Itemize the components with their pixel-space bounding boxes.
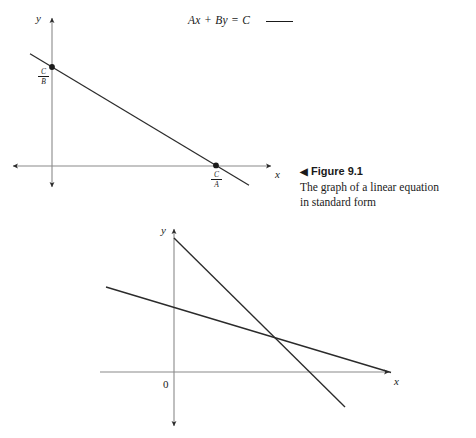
x-intercept-denominator: A: [211, 181, 222, 189]
x-intercept-point: [213, 163, 219, 169]
bottom-panel-lines: [106, 238, 391, 407]
bottom-origin-label: 0: [163, 378, 169, 390]
figure-graphics: [0, 0, 476, 438]
top-panel-axes: [13, 18, 271, 187]
caption-text: The graph of a linear equation in standa…: [300, 180, 476, 210]
caption-heading: ◀Figure 9.1: [300, 165, 476, 179]
top-x-axis-label: x: [275, 168, 280, 180]
y-intercept-label: C B: [38, 68, 49, 86]
y-intercept-denominator: B: [38, 78, 49, 86]
figure-page: Ax + By = C y x C B C A ◀Figure 9.1 The …: [0, 0, 476, 438]
x-intercept-numerator: C: [211, 171, 222, 179]
equation-label: Ax + By = C: [188, 14, 250, 26]
bottom-y-axis-label: y: [161, 224, 166, 236]
bottom-panel-axes: [100, 229, 389, 426]
figure-caption: ◀Figure 9.1 The graph of a linear equati…: [300, 165, 476, 210]
flat-line: [106, 287, 391, 373]
caption-line-1: The graph of a linear equation: [300, 181, 439, 193]
caption-line-2: in standard form: [300, 196, 376, 208]
steep-line: [174, 238, 345, 407]
bottom-x-axis-label: x: [394, 375, 399, 387]
top-y-axis-label: y: [36, 12, 41, 24]
caption-title: Figure 9.1: [311, 165, 363, 177]
y-intercept-point: [49, 64, 55, 70]
x-intercept-label: C A: [211, 171, 222, 189]
caption-left-triangle-icon: ◀: [300, 166, 308, 179]
y-intercept-numerator: C: [38, 68, 49, 76]
